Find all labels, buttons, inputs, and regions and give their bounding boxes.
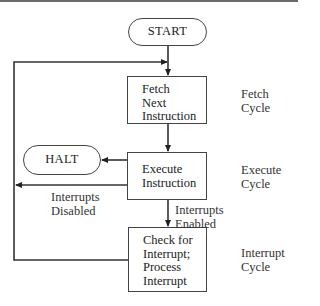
interrupt-line-1: Check for — [143, 234, 206, 248]
halt-label: HALT — [45, 153, 78, 167]
disabled-line-2: Disabled — [51, 204, 100, 218]
interrupt-process-box: Check for Interrupt; Process Interrupt — [128, 227, 207, 292]
start-terminal: START — [128, 18, 207, 46]
interrupt-line-2: Interrupt; — [143, 248, 206, 262]
interrupt-line-4: Interrupt — [143, 275, 206, 289]
fetch-line-3: Instruction — [142, 110, 206, 124]
fetch-line-2: Next — [142, 97, 206, 111]
interrupts-disabled-label: Interrupts Disabled — [51, 190, 100, 218]
fetch-cycle-line-1: Fetch — [241, 87, 270, 101]
execute-cycle-line-1: Execute — [241, 163, 281, 177]
interrupt-line-3: Process — [143, 261, 206, 275]
fetch-process-box: Fetch Next Instruction — [127, 76, 207, 124]
interrupts-enabled-label: Interrupts Enabled — [175, 203, 224, 231]
disabled-line-1: Interrupts — [51, 190, 100, 204]
fetch-line-1: Fetch — [142, 83, 206, 97]
execute-process-box: Execute Instruction — [127, 152, 207, 200]
fetch-cycle-label: Fetch Cycle — [241, 87, 270, 115]
interrupt-cycle-line-2: Cycle — [241, 260, 285, 274]
start-label: START — [148, 25, 187, 39]
enabled-line-2: Enabled — [175, 217, 224, 231]
execute-cycle-label: Execute Cycle — [241, 163, 281, 191]
interrupt-cycle-line-1: Interrupt — [241, 246, 285, 260]
enabled-line-1: Interrupts — [175, 203, 224, 217]
execute-cycle-line-2: Cycle — [241, 177, 281, 191]
interrupt-cycle-label: Interrupt Cycle — [241, 246, 285, 274]
execute-line-2: Instruction — [142, 177, 206, 191]
fetch-cycle-line-2: Cycle — [241, 101, 270, 115]
halt-terminal: HALT — [23, 145, 101, 175]
execute-line-1: Execute — [142, 163, 206, 177]
